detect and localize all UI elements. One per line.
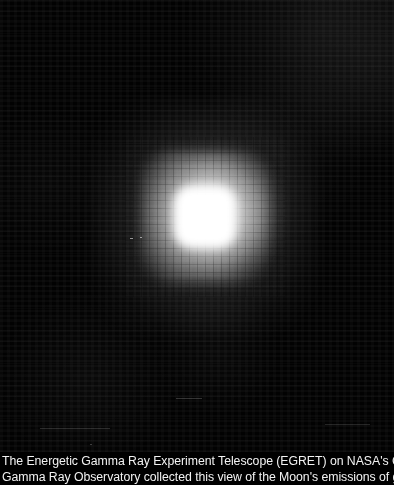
caption-line-1: The Energetic Gamma Ray Experiment Teles… — [0, 452, 394, 469]
gamma-halo-right-extension — [186, 164, 278, 260]
page-root: The Energetic Gamma Ray Experiment Teles… — [0, 0, 394, 485]
noise-speckle — [176, 398, 202, 399]
background-noise-blotches — [0, 0, 394, 452]
detector-noise-texture — [0, 0, 394, 452]
moon-gamma-core — [174, 186, 236, 248]
moon-gamma-core-peak — [185, 197, 225, 237]
caption-line-2: Gamma Ray Observatory collected this vie… — [0, 469, 394, 485]
noise-speckle — [90, 444, 92, 445]
gamma-ray-image — [0, 0, 394, 452]
noise-speckle — [140, 237, 142, 238]
image-caption: The Energetic Gamma Ray Experiment Teles… — [0, 452, 394, 485]
pixelation-grid-overlay — [125, 137, 285, 297]
noise-speckle — [40, 428, 110, 429]
gamma-halo-outer — [90, 97, 320, 337]
noise-speckle — [130, 238, 133, 239]
noise-speckle — [325, 424, 370, 425]
gamma-halo-mid — [141, 151, 269, 283]
